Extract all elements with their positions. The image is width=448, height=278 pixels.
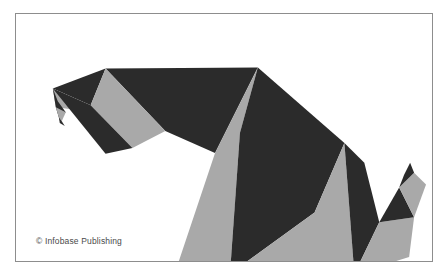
figure-frame: Upper beak (dark)Beak notch (gray)Lower …: [15, 13, 433, 262]
bird-polygon-artwork: Upper beak (dark)Beak notch (gray)Lower …: [16, 14, 432, 261]
figure-root: Upper beak (dark)Beak notch (gray)Lower …: [0, 0, 448, 278]
credit-line: © Infobase Publishing: [36, 236, 122, 247]
polygon-group: Upper beak (dark)Beak notch (gray)Lower …: [53, 68, 426, 261]
